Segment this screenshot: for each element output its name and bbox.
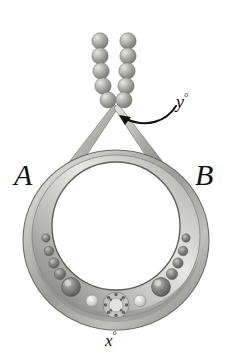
gem-right-4 [166,268,177,279]
apex-degree-symbol: ° [184,91,188,103]
gem-right-2 [178,246,188,256]
bead-right-3 [119,63,135,79]
arrow-curve [126,106,176,123]
bead-right-4 [118,78,134,94]
bead-left-4 [95,78,111,94]
gem-right-pale [134,295,146,307]
bead-left-2 [92,48,108,64]
apex-angle-label: y° [176,92,188,111]
bottom-degree-symbol: ° [113,330,117,341]
bottom-angle-label: x° [105,331,117,349]
gem-right-3 [173,258,183,268]
apex-angle-variable: y [176,92,184,112]
bead-left-5 [100,92,116,108]
bead-right-2 [120,48,136,64]
gem-left-2 [44,246,54,256]
gem-left-4 [54,268,65,279]
gem-right-large-highlight [155,280,161,286]
gem-right-1 [182,234,190,242]
vertex-label-a: A [14,160,32,190]
bottom-angle-variable: x [105,331,113,350]
bead-right-1 [120,33,136,49]
bead-chain-right [116,33,136,108]
gem-left-1 [42,234,50,242]
gem-left-large-highlight [65,280,71,286]
bead-chain-left [92,33,116,108]
ring-aperture [52,162,180,290]
gem-left-large [62,278,81,297]
center-rosette-ornament [103,292,129,318]
bead-left-3 [93,63,109,79]
gem-left-3 [49,258,59,268]
figure-canvas: A B y° x° [0,0,232,360]
vertex-label-b: B [195,160,213,190]
gem-right-large [152,278,171,297]
bead-right-5 [116,92,132,108]
gem-left-pale [86,295,98,307]
bead-left-1 [92,33,108,49]
